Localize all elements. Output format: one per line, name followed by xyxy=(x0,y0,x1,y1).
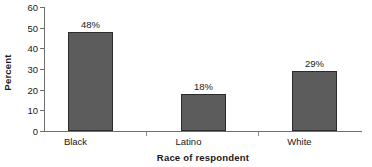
y-tick-label-60: 60 xyxy=(18,3,38,13)
y-axis-title-text: Percent xyxy=(2,54,13,90)
x-tick-mark-1 xyxy=(146,132,147,136)
x-category-label-white: White xyxy=(262,137,337,147)
y-tick-label-0: 0 xyxy=(18,127,38,137)
plot-area: 48% 18% 29% xyxy=(45,7,362,131)
y-axis-title: Percent xyxy=(0,38,14,106)
bar-chart: Percent 60 50 40 30 20 10 0 48% 18% 29% … xyxy=(0,0,372,167)
x-tick-mark-2 xyxy=(258,132,259,136)
bar-value-latino: 18% xyxy=(171,82,236,92)
bar-latino xyxy=(181,94,226,131)
y-tick-label-40: 40 xyxy=(18,44,38,54)
y-tick-label-50: 50 xyxy=(18,24,38,34)
bar-value-black: 48% xyxy=(58,20,123,30)
x-axis-title: Race of respondent xyxy=(44,152,362,163)
bar-white xyxy=(292,71,337,131)
bar-black xyxy=(68,32,113,131)
bar-value-white: 29% xyxy=(282,59,347,69)
x-category-label-black: Black xyxy=(38,137,113,147)
x-category-label-latino: Latino xyxy=(151,137,226,147)
y-tick-label-10: 10 xyxy=(18,106,38,116)
y-tick-label-30: 30 xyxy=(18,65,38,75)
y-axis-tick-labels: 60 50 40 30 20 10 0 xyxy=(14,0,38,167)
y-tick-label-20: 20 xyxy=(18,86,38,96)
x-axis-line xyxy=(44,131,362,132)
